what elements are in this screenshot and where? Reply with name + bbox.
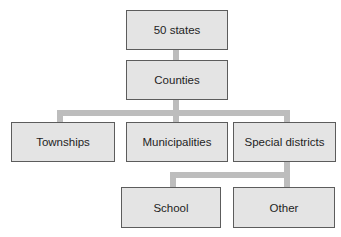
connector-level3-bar bbox=[170, 172, 290, 178]
node-other: Other bbox=[233, 187, 335, 228]
connector-states-counties bbox=[173, 50, 179, 60]
node-school: School bbox=[121, 187, 221, 228]
node-townships: Townships bbox=[11, 122, 115, 162]
connector-to-special-districts bbox=[284, 110, 290, 122]
node-municipalities: Municipalities bbox=[126, 122, 228, 162]
connector-to-school bbox=[170, 172, 176, 187]
connector-to-townships bbox=[57, 110, 63, 122]
node-special-districts: Special districts bbox=[233, 122, 336, 162]
node-counties: Counties bbox=[126, 60, 228, 100]
node-50-states: 50 states bbox=[126, 10, 228, 50]
connector-level2-bar bbox=[57, 110, 290, 116]
